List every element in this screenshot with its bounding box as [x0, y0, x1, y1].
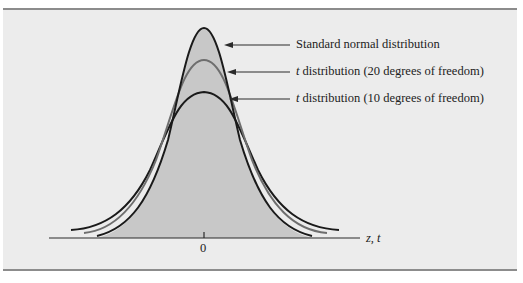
distribution-curves: [0, 0, 523, 283]
t20-text: distribution (20 degrees of freedom): [299, 64, 483, 78]
label-t20: t distribution (20 degrees of freedom): [296, 64, 484, 79]
arrow-standard-normal: [224, 42, 290, 48]
tick-label-zero: 0: [200, 241, 206, 256]
arrow-t10: [229, 96, 290, 102]
axis-label-zt: z, t: [366, 231, 381, 246]
label-standard-normal: Standard normal distribution: [296, 37, 440, 52]
t10-text: distribution (10 degrees of freedom): [299, 91, 483, 105]
arrow-t20: [227, 69, 290, 75]
label-t10: t distribution (10 degrees of freedom): [296, 91, 484, 106]
